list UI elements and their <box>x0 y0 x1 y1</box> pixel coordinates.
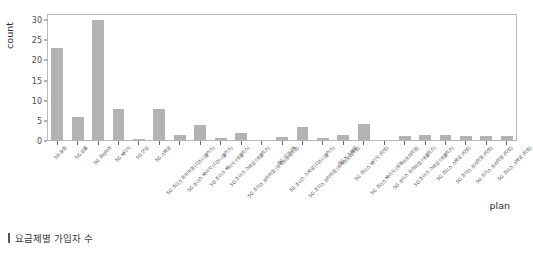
bar <box>297 127 309 142</box>
x-axis-label-cell: 5G 베이직 <box>108 145 128 225</box>
x-axis-tick-label: 5G 초이스 스페셜 (티빙) <box>497 146 533 182</box>
bar <box>72 117 84 141</box>
x-axis-label-cell: 5G 초이스 스페셜 (넷플릭스) <box>231 145 251 225</box>
bar <box>113 109 125 141</box>
bar-series <box>47 14 517 141</box>
x-axis-label-cell: 5G 초이스 프리미엄 (유튜브프리미엄) <box>251 145 271 225</box>
bar-cell <box>292 14 312 141</box>
bar-cell <box>129 14 149 141</box>
x-axis-label-cell: 5G 프리미어 <box>88 145 108 225</box>
bar <box>235 133 247 141</box>
x-axis-label-cell: 5G 초이스 프리미엄 (티빙) <box>476 145 496 225</box>
x-axis-tick-label: 5G 슬림 <box>54 146 69 161</box>
bar-cell <box>190 14 210 141</box>
x-axis-label-cell: 5G 초이스 베이직 (디즈니플러스) <box>190 145 210 225</box>
y-axis-title: count <box>2 14 16 141</box>
y-axis-tick-label: 10 <box>32 96 42 105</box>
bar-cell <box>108 14 128 141</box>
bar-cell <box>211 14 231 141</box>
bar-cell <box>251 14 271 141</box>
bar-cell <box>497 14 517 141</box>
bar-cell <box>415 14 435 141</box>
bar <box>51 48 63 141</box>
x-axis-label-cell: 5G Y 스페셜 <box>333 145 353 225</box>
y-axis-tick-label: 20 <box>32 56 42 65</box>
bar <box>92 20 104 141</box>
x-axis-label-cell: 5G 초이스 스페셜 (티빙) <box>435 145 455 225</box>
bar-cell <box>374 14 394 141</box>
y-axis-tick-label: 0 <box>37 137 42 146</box>
caption-marker-icon <box>8 233 10 243</box>
bar-cell <box>47 14 67 141</box>
bar-cell <box>354 14 374 141</box>
bar <box>358 124 370 141</box>
x-axis-label-cell: 5G 슬림 <box>47 145 67 225</box>
y-axis-ticks: 051015202530 <box>18 14 47 141</box>
y-axis-tick-label: 15 <box>32 76 42 85</box>
x-axis-label-cell: 5G 초이스 프리미엄 (넷플릭스) <box>394 145 414 225</box>
x-axis-label-cell: 5G 초이스 스페셜 (디즈니플러스) <box>292 145 312 225</box>
x-axis-label-cell: 5G 초이스 프리미엄 (티빙) <box>456 145 476 225</box>
figure-caption: 요금제별 가입자 수 <box>8 231 93 245</box>
bar-cell <box>435 14 455 141</box>
bar-cell <box>394 14 414 141</box>
x-axis-label-cell: 5G 안심 <box>129 145 149 225</box>
x-axis-title: plan <box>489 200 510 211</box>
x-axis-label-cell: 5G 초이스 프리미엄 (유튜브프리미엄) <box>313 145 333 225</box>
x-axis-label-cell: 5G 초이스 프리미엄 (디즈니플러스) <box>170 145 190 225</box>
bar-cell <box>476 14 496 141</box>
x-axis-label-cell: 5G 초이스 베이직 (넷플릭스) <box>211 145 231 225</box>
x-axis-label-cell: 5G 스페셜 <box>149 145 169 225</box>
x-axis-label-cell: 5G 시그니처 <box>272 145 292 225</box>
x-axis-label-cell: 5G 초이스 베이직 (티빙) <box>354 145 374 225</box>
bar-cell <box>170 14 190 141</box>
x-axis-tick-label: 5G 안심 <box>136 146 151 161</box>
y-axis-tick-label: 5 <box>37 116 42 125</box>
x-axis-label-cell: 5G 초이스 스페셜 (넷플릭스) <box>415 145 435 225</box>
x-axis-tick-labels: 5G 슬림5G 심플5G 프리미어5G 베이직5G 안심5G 스페셜5G 초이스… <box>47 145 517 225</box>
bar-cell <box>67 14 87 141</box>
x-axis-label-cell: 5G 초이스 베이직 (유튜브프리미엄) <box>374 145 394 225</box>
x-axis-label-cell: 5G 심플 <box>67 145 87 225</box>
y-axis-tick-label: 25 <box>32 36 42 45</box>
x-axis-label-cell: 5G 초이스 스페셜 (티빙) <box>497 145 517 225</box>
caption-text: 요금제별 가입자 수 <box>15 231 93 245</box>
bar <box>153 109 165 141</box>
bar-cell <box>456 14 476 141</box>
y-axis-tick-label: 30 <box>32 16 42 25</box>
bar-cell <box>149 14 169 141</box>
bar-cell <box>333 14 353 141</box>
bar <box>194 125 206 141</box>
x-axis-tick-label: 5G 심플 <box>74 146 89 161</box>
y-axis-title-text: count <box>4 22 15 49</box>
bar-cell <box>272 14 292 141</box>
bar-cell <box>88 14 108 141</box>
plot-panel-wrapper <box>47 14 517 141</box>
bar-cell <box>313 14 333 141</box>
bar-cell <box>231 14 251 141</box>
